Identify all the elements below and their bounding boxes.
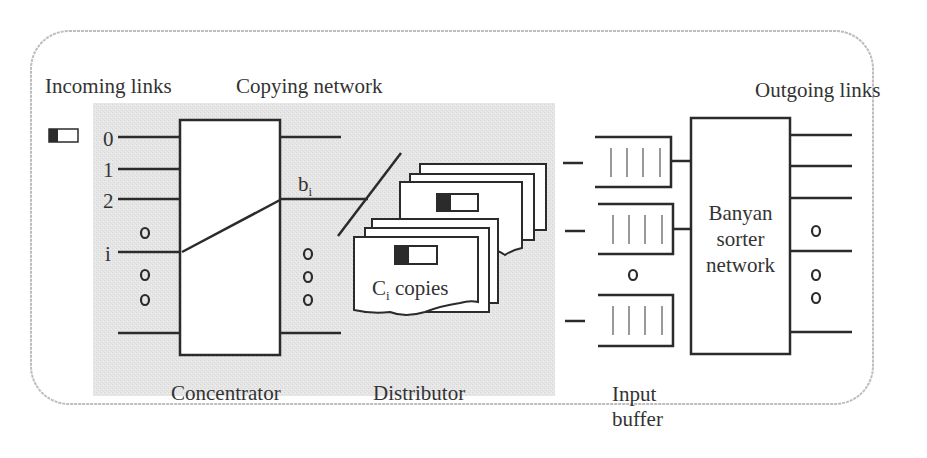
copies-label-rest: copies — [390, 276, 449, 300]
banyan-label-line3: network — [691, 252, 790, 278]
input-index-1: 1 — [103, 160, 114, 181]
outgoing-links-label: Outgoing links — [755, 80, 880, 101]
banyan-label-line2: sorter — [691, 226, 790, 252]
incoming-links-label: Incoming links — [45, 76, 172, 97]
input-index-i: i — [105, 244, 111, 265]
banyan-label: Banyan sorter network — [691, 200, 790, 278]
packet-icon — [49, 129, 78, 142]
input-buffer-label-line2: buffer — [612, 409, 663, 430]
copies-label: Ci copies — [372, 278, 449, 299]
concentrator-label: Concentrator — [171, 383, 281, 404]
concentrator-box — [180, 120, 280, 355]
distributor-label: Distributor — [373, 383, 465, 404]
banyan-label-line1: Banyan — [691, 200, 790, 226]
input-index-0: 0 — [103, 129, 114, 150]
signal-label-sub: i — [309, 184, 313, 199]
distributor-copies-front — [354, 219, 498, 315]
input-index-2: 2 — [103, 191, 114, 212]
signal-label: bi — [298, 174, 312, 195]
copying-network-label: Copying network — [236, 76, 382, 97]
input-buffer-label-line1: Input — [612, 384, 656, 405]
copies-label-base: C — [372, 276, 386, 300]
copies-label-sub: i — [386, 288, 390, 303]
signal-label-base: b — [298, 172, 309, 196]
